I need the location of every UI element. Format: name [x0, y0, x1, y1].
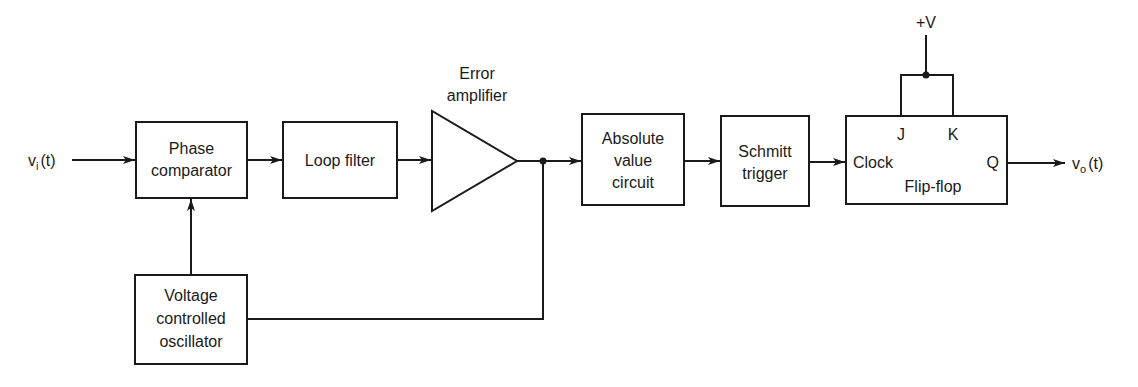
schmitt-label-1: Schmitt	[738, 143, 792, 160]
output-label: vo(t)	[1072, 155, 1103, 175]
vco-block: Voltage controlled oscillator	[135, 275, 247, 364]
error-amplifier-label-2: amplifier	[447, 87, 508, 104]
absolute-label-2: value	[614, 152, 652, 169]
loop-filter-label: Loop filter	[305, 152, 376, 169]
output-signal: vo(t)	[1007, 155, 1103, 175]
schmitt-label-2: trigger	[742, 165, 788, 182]
ff-q-pin: Q	[987, 154, 999, 171]
ff-label: Flip-flop	[905, 178, 962, 195]
flip-flop-block: J K Clock Q Flip-flop	[846, 116, 1007, 204]
absolute-label-3: circuit	[612, 174, 654, 191]
supply-junction-dot	[923, 72, 930, 79]
absolute-label-1: Absolute	[602, 130, 664, 147]
error-amplifier-block: Error amplifier	[432, 65, 517, 211]
absolute-value-block: Absolute value circuit	[582, 114, 684, 205]
input-signal: vi(t)	[28, 152, 135, 172]
schmitt-trigger-block: Schmitt trigger	[721, 116, 809, 206]
supply-label: +V	[916, 14, 936, 31]
input-label: vi(t)	[28, 152, 56, 172]
vco-label-2: controlled	[156, 310, 225, 327]
vco-label-3: oscillator	[159, 333, 223, 350]
phase-comparator-block: Phase comparator	[136, 122, 247, 198]
supply-connection: +V	[901, 14, 953, 116]
vco-label-1: Voltage	[164, 287, 217, 304]
ff-j-pin: J	[897, 126, 905, 143]
phase-comparator-label-2: comparator	[151, 162, 233, 179]
pll-block-diagram: vi(t) Phase comparator Loop filter Error…	[0, 0, 1138, 387]
ff-k-pin: K	[948, 126, 959, 143]
error-amplifier-label-1: Error	[459, 65, 495, 82]
loop-filter-block: Loop filter	[283, 122, 397, 198]
phase-comparator-label-1: Phase	[169, 140, 214, 157]
ff-clock-pin: Clock	[853, 154, 894, 171]
